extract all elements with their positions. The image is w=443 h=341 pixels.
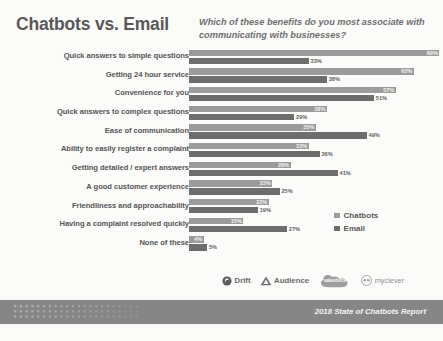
bar-value-label: 22% [256, 199, 267, 205]
bar-email: 19% [189, 207, 258, 213]
legend-label: Chatbots [344, 211, 379, 220]
bar-value-label: 4% [194, 236, 202, 242]
logo-drift-label: Drift [235, 276, 251, 285]
sponsor-logo-row: Drift Audience salesforce myclever [222, 272, 437, 289]
category-label: Quick answers to simple questions [3, 51, 189, 60]
bar-email: 36% [189, 151, 320, 157]
legend-item-email[interactable]: Email [334, 223, 434, 234]
myclever-logo-icon [361, 275, 372, 286]
bar-value-label: 36% [321, 151, 332, 157]
category-label: Friendliness and approachability [3, 201, 189, 210]
legend-swatch-icon [334, 213, 340, 219]
logo-myclever: myclever [361, 275, 404, 286]
bar-chatbots: 62% [189, 68, 414, 74]
audience-logo-icon [260, 276, 272, 286]
category-label: None of these [3, 238, 189, 247]
footer-banner: 2018 State of Chatbots Report [0, 300, 443, 324]
bar-value-label: 15% [231, 218, 242, 224]
bar-chatbots: 35% [189, 124, 316, 130]
drift-logo-icon [222, 276, 232, 286]
bar-group: 28%41% [189, 160, 443, 179]
chart-row: Ability to easily register a complaint33… [0, 141, 443, 160]
chart-row: Quick answers to complex questions38%29% [0, 104, 443, 123]
bar-value-label: 23% [260, 180, 271, 186]
legend-swatch-icon [334, 226, 340, 232]
bar-group: 23%25% [189, 179, 443, 198]
chart-row: None of these4%5% [0, 235, 443, 254]
bar-value-label: 69% [427, 50, 438, 56]
bar-value-label: 57% [383, 87, 394, 93]
category-label: Convenience for you [3, 88, 189, 97]
logo-drift: Drift [222, 276, 251, 286]
bar-value-label: 33% [296, 143, 307, 149]
chart-row: Quick answers to simple questions69%33% [0, 48, 443, 67]
chart-header: Chatbots vs. Email Which of these benefi… [0, 0, 443, 48]
logo-myclever-label: myclever [375, 276, 405, 285]
bar-chatbots: 23% [189, 180, 272, 186]
bar-value-label: 38% [314, 106, 325, 112]
bar-chatbots: 57% [189, 87, 396, 93]
logo-audience-label: Audience [274, 276, 309, 285]
bar-value-label: 62% [401, 68, 412, 74]
bar-value-label: 33% [311, 58, 322, 64]
bar-value-label: 49% [369, 132, 380, 138]
category-label: Getting 24 hour service [3, 70, 189, 79]
bar-group: 62%38% [189, 67, 443, 86]
bar-email: 41% [189, 170, 338, 176]
bar-value-label: 28% [278, 162, 289, 168]
chart-row: Getting detailed / expert answers28%41% [0, 160, 443, 179]
bar-value-label: 5% [209, 244, 217, 250]
legend-label: Email [344, 224, 365, 233]
logo-salesforce: salesforce [318, 274, 352, 288]
bar-chatbots: 33% [189, 143, 309, 149]
logo-salesforce-label: salesforce [324, 278, 347, 283]
bar-email: 33% [189, 58, 309, 64]
chart-row: Ease of communication35%49% [0, 123, 443, 142]
bar-email: 27% [189, 226, 287, 232]
bar-chatbots: 69% [189, 50, 439, 56]
category-label: Ability to easily register a complaint [3, 144, 189, 153]
bar-email: 5% [189, 244, 207, 250]
bar-email: 29% [189, 114, 294, 120]
footer-report-label: 2018 State of Chatbots Report [315, 307, 426, 316]
bar-value-label: 35% [303, 124, 314, 130]
chart-legend: ChatbotsEmail [334, 210, 434, 236]
category-label: Getting detailed / expert answers [3, 163, 189, 172]
category-label: A good customer experience [3, 182, 189, 191]
bar-email: 25% [189, 188, 280, 194]
bar-email: 49% [189, 132, 367, 138]
bar-value-label: 25% [282, 188, 293, 194]
chart-page: Chatbots vs. Email Which of these benefi… [0, 0, 443, 341]
chart-row: Convenience for you57%51% [0, 85, 443, 104]
bar-chatbots: 22% [189, 199, 269, 205]
bar-group: 57%51% [189, 85, 443, 104]
bar-value-label: 41% [340, 170, 351, 176]
chart-subtitle: Which of these benefits do you most asso… [199, 16, 439, 41]
category-label: Having a complaint resolved quickly [3, 219, 189, 228]
bar-group: 38%29% [189, 104, 443, 123]
bar-chatbots: 4% [189, 236, 204, 242]
legend-item-chatbots[interactable]: Chatbots [334, 210, 434, 221]
category-label: Quick answers to complex questions [3, 107, 189, 116]
bar-group: 4%5% [189, 235, 443, 254]
bar-group: 35%49% [189, 123, 443, 142]
bar-chatbots: 28% [189, 162, 291, 168]
category-label: Ease of communication [3, 126, 189, 135]
bar-email: 38% [189, 76, 327, 82]
logo-audience: Audience [260, 276, 310, 286]
bar-group: 69%33% [189, 48, 443, 67]
bar-chatbots: 15% [189, 218, 243, 224]
bar-value-label: 19% [260, 207, 271, 213]
decorative-dot-pattern [14, 304, 142, 320]
bar-chatbots: 38% [189, 106, 327, 112]
chart-row: A good customer experience23%25% [0, 179, 443, 198]
bar-group: 33%36% [189, 141, 443, 160]
bar-value-label: 51% [376, 95, 387, 101]
bar-value-label: 27% [289, 226, 300, 232]
chart-row: Getting 24 hour service62%38% [0, 67, 443, 86]
page-title: Chatbots vs. Email [16, 14, 169, 35]
bar-value-label: 29% [296, 114, 307, 120]
bar-email: 51% [189, 95, 374, 101]
bar-value-label: 38% [329, 76, 340, 82]
